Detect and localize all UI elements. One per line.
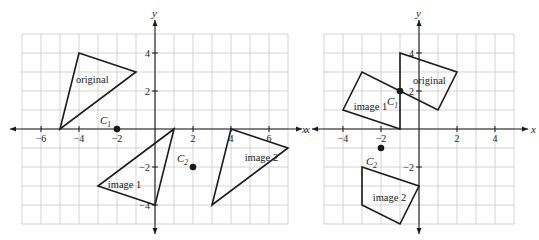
point-C2 <box>378 145 385 152</box>
point-C2 <box>190 164 197 171</box>
y-arrow-down-icon <box>153 228 158 234</box>
y-arrow-down-icon <box>417 228 422 234</box>
y-axis-label: y <box>151 7 157 19</box>
point-C1 <box>397 88 404 95</box>
shape-label-original: original <box>76 74 109 85</box>
shape-label-original: original <box>413 75 446 86</box>
y-tick-label: 2 <box>145 86 150 97</box>
y-arrow-up-icon <box>153 20 158 26</box>
transformation-figures: xy−6−4−224642−2−4originalimage 1image 2C… <box>0 0 539 240</box>
shape-label-image-1: image 1 <box>354 101 388 112</box>
point-label-C1: C1 <box>387 95 398 110</box>
axes: xy <box>10 7 310 234</box>
x-tick-label: 4 <box>493 133 498 144</box>
x-tick-label: −2 <box>376 133 387 144</box>
x-axis-label: x <box>530 123 536 135</box>
y-tick-label: −2 <box>403 162 414 173</box>
x-tick-label: 2 <box>455 133 460 144</box>
point-C1 <box>114 126 121 133</box>
shape-label-image-1: image 1 <box>108 179 142 190</box>
y-tick-label: 4 <box>145 48 150 59</box>
point-label-C1: C1 <box>100 114 111 129</box>
shape-label-image-2: image 2 <box>373 192 407 203</box>
x-tick-label: −6 <box>36 133 47 144</box>
figure-right: xyx−4−22442−2originalimage 1image 2C1C2 <box>301 7 536 234</box>
x-arrow-left-icon <box>312 127 318 132</box>
y-tick-label: −2 <box>139 162 150 173</box>
x-tick-label: 2 <box>191 133 196 144</box>
point-label-C2: C2 <box>177 152 188 167</box>
coordinate-grids-canvas: xy−6−4−224642−2−4originalimage 1image 2C… <box>0 0 539 240</box>
y-axis-label: y <box>415 7 421 19</box>
x-axis-label-left: x <box>301 123 307 135</box>
x-tick-label: −4 <box>338 133 349 144</box>
y-arrow-up-icon <box>417 20 422 26</box>
x-tick-label: −2 <box>112 133 123 144</box>
x-arrow-right-icon <box>522 127 528 132</box>
x-tick-label: −4 <box>74 133 85 144</box>
figure-left: xy−6−4−224642−2−4originalimage 1image 2C… <box>10 7 310 234</box>
x-arrow-left-icon <box>10 127 16 132</box>
shape-label-image-2: image 2 <box>245 152 279 163</box>
y-tick-label: 2 <box>409 86 414 97</box>
axes: xyx <box>301 7 536 234</box>
